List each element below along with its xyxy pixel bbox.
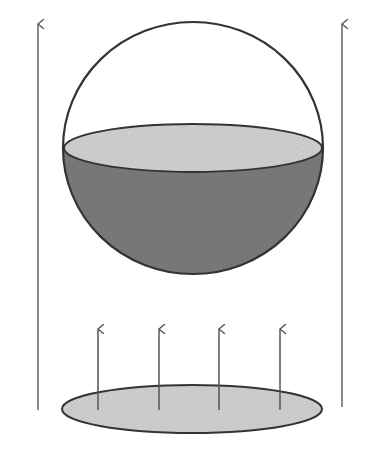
sphere-heating-diagram [0,0,367,461]
sphere-container [63,22,323,274]
heat-disk [62,385,322,433]
